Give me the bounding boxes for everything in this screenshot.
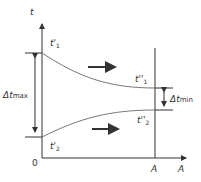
delta-min-label: Δtmin	[169, 94, 193, 104]
y-axis-label: t	[30, 7, 34, 17]
t1-out-label: t''1	[135, 74, 147, 85]
x-axis-label: A	[177, 164, 184, 174]
t2-in-label: t'2	[50, 141, 60, 152]
origin-label: 0	[32, 158, 38, 168]
delta-max-label: Δtmax	[2, 90, 28, 100]
t2-out-label: t''2	[137, 115, 149, 126]
section-a-label: A	[150, 164, 157, 174]
heat-exchanger-temperature-diagram: t t'1 t'2 t''1 t''2 Δtmax Δtmin 0 A A	[0, 0, 201, 182]
t1-in-label: t'1	[50, 38, 60, 49]
